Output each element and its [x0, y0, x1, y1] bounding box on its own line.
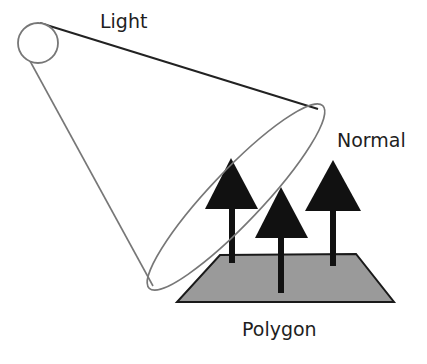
light-label: Light: [100, 12, 147, 31]
normal-label: Normal: [337, 131, 406, 150]
polygon-label: Polygon: [242, 320, 317, 339]
polygon-shape: [177, 254, 394, 302]
cone-bottom-edge: [30, 61, 153, 286]
lighting-diagram: [0, 0, 427, 364]
light-source-circle: [18, 23, 58, 63]
normal-arrow-left: [205, 158, 258, 263]
normal-arrow-right: [305, 160, 361, 266]
cone-top-edge: [40, 23, 318, 109]
